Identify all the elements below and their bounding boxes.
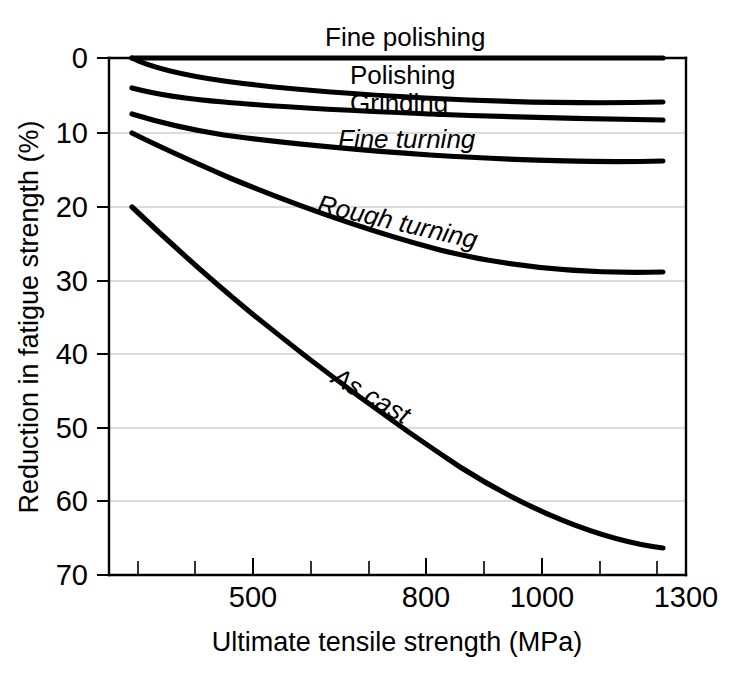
chart-figure: Fine polishing Polishing Grinding Fine t…: [0, 0, 748, 676]
x-axis-title: Ultimate tensile strength (MPa): [212, 627, 583, 657]
label-fine-polishing: Fine polishing: [325, 22, 485, 52]
ytick-label-40: 40: [56, 338, 88, 370]
fatigue-strength-line-chart: Fine polishing Polishing Grinding Fine t…: [0, 0, 748, 676]
label-fine-turning: Fine turning: [338, 124, 476, 154]
label-grinding: Grinding: [350, 88, 448, 118]
xtick-label-1300: 1300: [654, 581, 719, 613]
ytick-label-10: 10: [56, 117, 88, 149]
xtick-label-500: 500: [229, 581, 277, 613]
ytick-label-60: 60: [56, 485, 88, 517]
ytick-label-50: 50: [56, 412, 88, 444]
y-axis-title: Reduction in fatigue strength (%): [14, 120, 44, 513]
ytick-label-0: 0: [72, 42, 88, 74]
ytick-label-30: 30: [56, 265, 88, 297]
xtick-label-800: 800: [402, 581, 450, 613]
ytick-label-70: 70: [56, 559, 88, 591]
xtick-label-1000: 1000: [510, 581, 575, 613]
label-polishing: Polishing: [350, 60, 456, 90]
ytick-label-20: 20: [56, 191, 88, 223]
